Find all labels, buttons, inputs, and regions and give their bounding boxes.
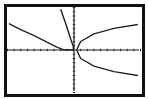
steep-curve-near-origin [61,9,74,50]
curves [9,9,138,75]
sideways-parabola-lower [77,50,138,76]
left-decreasing-curve [9,24,74,50]
graph-plot [0,0,148,99]
sideways-parabola-upper [77,25,138,51]
